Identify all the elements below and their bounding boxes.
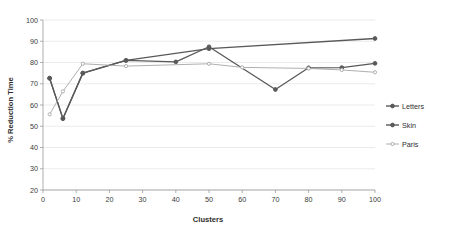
data-point [81, 62, 84, 65]
y-tickmarks-group [40, 20, 43, 190]
x-tick-label: 60 [238, 195, 246, 204]
y-tick-label: 70 [30, 79, 38, 88]
x-tickmarks-group [43, 190, 375, 193]
y-tick-label: 40 [30, 143, 38, 152]
data-point [174, 60, 178, 64]
x-tick-labels-group: 0102030405060708090100 [41, 195, 381, 204]
y-tick-label: 100 [26, 16, 38, 25]
data-point [307, 67, 310, 70]
series-paris [48, 62, 377, 116]
data-point [48, 76, 52, 80]
x-tick-label: 80 [305, 195, 313, 204]
x-tick-label: 10 [72, 195, 80, 204]
data-point [340, 68, 343, 71]
series-line [50, 47, 375, 119]
data-point [61, 117, 65, 121]
legend-item-paris[interactable]: Paris [386, 140, 419, 149]
data-point [241, 66, 244, 69]
y-tick-label: 60 [30, 101, 38, 110]
data-point [373, 71, 376, 74]
series-line [50, 64, 375, 115]
x-tick-label: 90 [338, 195, 346, 204]
chart-legend: LettersSkinParis [386, 102, 424, 149]
legend-item-skin[interactable]: Skin [386, 121, 416, 130]
series-layer [48, 37, 377, 121]
data-point [48, 113, 51, 116]
x-tick-label: 100 [369, 195, 381, 204]
chart-container: 2030405060708090100 01020304050607080901… [0, 0, 449, 229]
data-point [81, 71, 85, 75]
x-tick-label: 40 [172, 195, 180, 204]
legend-swatch-marker [391, 142, 394, 145]
y-tick-labels-group: 2030405060708090100 [26, 16, 38, 195]
legend-label: Paris [402, 140, 419, 149]
data-point [207, 62, 210, 65]
x-tick-label: 70 [271, 195, 279, 204]
series-line [50, 38, 375, 118]
series-skin [48, 45, 377, 121]
line-chart: 2030405060708090100 01020304050607080901… [0, 0, 449, 229]
data-point [124, 65, 127, 68]
y-tick-label: 90 [30, 37, 38, 46]
x-tick-label: 20 [105, 195, 113, 204]
data-point [207, 45, 211, 49]
y-axis-title: % Reduction Time [6, 77, 15, 143]
x-axis-title: Clusters [193, 215, 223, 224]
data-point [373, 37, 377, 41]
y-tick-label: 50 [30, 122, 38, 131]
legend-swatch-marker [391, 104, 395, 108]
y-tick-label: 20 [30, 186, 38, 195]
legend-swatch-marker [391, 123, 395, 127]
y-tick-label: 30 [30, 164, 38, 173]
x-tick-label: 0 [41, 195, 45, 204]
data-point [274, 88, 278, 92]
x-tick-label: 50 [205, 195, 213, 204]
x-tick-label: 30 [139, 195, 147, 204]
data-point [373, 61, 377, 65]
data-point [124, 58, 128, 62]
legend-item-letters[interactable]: Letters [386, 102, 424, 111]
legend-label: Skin [402, 121, 416, 130]
legend-label: Letters [402, 102, 424, 111]
y-tick-label: 80 [30, 58, 38, 67]
data-point [61, 90, 64, 93]
